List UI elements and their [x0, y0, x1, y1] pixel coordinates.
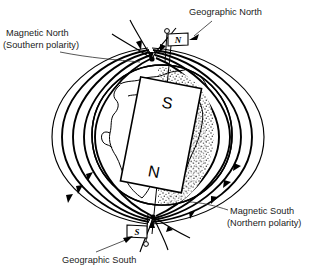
arrow-right-3: [211, 196, 218, 204]
north-flag-letter: N: [174, 35, 182, 45]
geographic-north-leader: [194, 21, 212, 36]
label-magnetic-north: Magnetic North (Southern polarity): [3, 28, 140, 62]
south-pole-knob: [144, 242, 149, 247]
magnetic-north-line1: Magnetic North: [6, 28, 69, 38]
arrow-toward-south: [189, 211, 195, 219]
geographic-south-text: Geographic South: [62, 255, 136, 265]
geographic-north-text: Geographic North: [189, 7, 262, 17]
magnetic-field-diagram: S N N: [0, 0, 324, 271]
south-pole-node: [150, 214, 155, 219]
geographic-north-arrow: [189, 34, 199, 40]
magnetic-south-line2: (Northern polarity): [227, 218, 301, 228]
magnetic-south-line1: Magnetic South: [230, 206, 294, 216]
diagram-canvas: S N N: [0, 0, 324, 271]
north-pole-knob: [165, 29, 170, 34]
magnetic-north-line2: (Southern polarity): [3, 40, 79, 50]
label-geographic-north: Geographic North: [189, 7, 262, 40]
arrow-right-1: [233, 163, 241, 171]
label-geographic-south: Geographic South: [62, 236, 136, 265]
arrow-left-3: [66, 194, 73, 203]
arrow-left-2: [76, 185, 83, 194]
south-flag-letter: S: [134, 227, 139, 237]
geographic-south-leader: [96, 239, 128, 252]
geographic-south-arrow: [123, 236, 133, 243]
north-pole-node: [149, 56, 154, 61]
